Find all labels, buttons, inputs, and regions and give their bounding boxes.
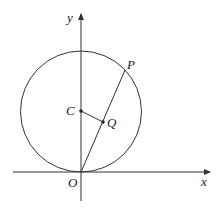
- segment-cq: [81, 111, 103, 122]
- x-axis-label: x: [200, 174, 207, 189]
- point-q-label: Q: [107, 115, 117, 130]
- origin-label: O: [68, 175, 78, 190]
- center-label: C: [66, 103, 75, 118]
- point-c: [79, 109, 83, 113]
- point-p-label: P: [126, 57, 135, 72]
- point-q: [101, 120, 105, 124]
- y-axis-label: y: [65, 10, 73, 25]
- diagram-canvas: y x O C P Q: [0, 0, 220, 210]
